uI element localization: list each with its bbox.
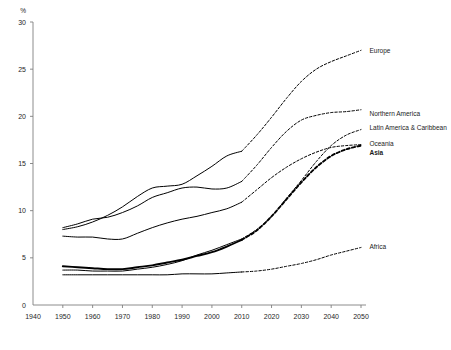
- x-tick-label: 2010: [234, 313, 250, 320]
- series-line-projected: [242, 145, 361, 203]
- series-label-latin-america-caribbean: Latin America & Caribbean: [369, 124, 447, 131]
- y-tick-label: 30: [18, 19, 26, 26]
- x-tick-label: 2050: [353, 313, 369, 320]
- series-label-layer: EuropeNorthern AmericaLatin America & Ca…: [369, 47, 447, 250]
- y-tick-label: 20: [18, 113, 26, 120]
- series-line-projected: [242, 50, 361, 151]
- y-tick-label: 25: [18, 66, 26, 73]
- series-line-projected: [242, 146, 361, 240]
- series-label-northern-america: Northern America: [369, 110, 420, 117]
- series-label-asia: Asia: [369, 149, 383, 156]
- y-tick-label: 0: [22, 302, 26, 309]
- x-tick-label: 2030: [294, 313, 310, 320]
- series-label-africa: Africa: [369, 243, 386, 250]
- y-tick-label: 15: [18, 160, 26, 167]
- x-tick-label: 1970: [115, 313, 131, 320]
- series-line-observed: [63, 240, 242, 269]
- series-line-observed: [63, 272, 242, 275]
- x-tick-label: 1980: [144, 313, 160, 320]
- x-tick-label: 1960: [85, 313, 101, 320]
- x-tick-label: 1950: [55, 313, 71, 320]
- series-line-observed: [63, 151, 242, 229]
- y-tick-label: 5: [22, 254, 26, 261]
- y-tick-label: 10: [18, 207, 26, 214]
- y-axis-unit-label: %: [20, 7, 26, 14]
- x-tick-label: 2000: [204, 313, 220, 320]
- x-tick-label: 1990: [174, 313, 190, 320]
- line-chart: %051015202530194019501960197019801990200…: [0, 0, 451, 350]
- chart-container: %051015202530194019501960197019801990200…: [0, 0, 451, 350]
- series-line-projected: [242, 247, 361, 272]
- axis-layer: %051015202530194019501960197019801990200…: [18, 7, 369, 320]
- x-tick-label: 2020: [264, 313, 280, 320]
- series-label-europe: Europe: [369, 47, 390, 55]
- x-tick-label: 2040: [323, 313, 339, 320]
- series-layer: [63, 50, 361, 275]
- series-label-oceania: Oceania: [369, 140, 394, 147]
- series-line-observed: [63, 202, 242, 239]
- series-line-observed: [63, 239, 242, 271]
- x-tick-label: 1940: [25, 313, 41, 320]
